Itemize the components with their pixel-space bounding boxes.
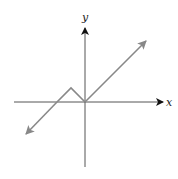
curve-right-ray [85, 41, 146, 102]
y-axis-label: y [81, 11, 89, 24]
graph-figure: x y [0, 0, 178, 179]
x-axis-label: x [166, 96, 173, 109]
curve-vertex-segment [57, 88, 85, 102]
curve-left-ray [26, 102, 57, 134]
